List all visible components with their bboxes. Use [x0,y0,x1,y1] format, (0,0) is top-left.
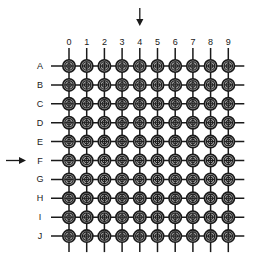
grid-node-C3 [116,98,128,110]
row-arrow-head [19,157,26,164]
grid-node-I5 [151,211,163,223]
grid-node-G2 [98,173,110,185]
grid-node-A7 [187,60,199,72]
grid-node-H0 [63,192,75,204]
column-label-1: 1 [80,37,94,47]
grid-node-E1 [81,135,93,147]
column-label-0: 0 [62,37,76,47]
grid-node-G4 [134,173,146,185]
grid-node-G8 [204,173,216,185]
column-label-2: 2 [97,37,111,47]
grid-node-A6 [169,60,181,72]
grid-node-H4 [134,192,146,204]
grid-node-I4 [134,211,146,223]
grid-node-D4 [134,117,146,129]
grid-node-J3 [116,230,128,242]
grid-node-C1 [81,98,93,110]
grid-node-J1 [81,230,93,242]
grid-node-I3 [116,211,128,223]
grid-node-A2 [98,60,110,72]
grid-node-F1 [81,154,93,166]
vertical-grid-lines [69,48,228,252]
grid-node-E4 [134,135,146,147]
grid-node-J7 [187,230,199,242]
row-label-D: D [33,118,47,128]
grid-node-G5 [151,173,163,185]
grid-node-C0 [63,98,75,110]
grid-node-E6 [169,135,181,147]
grid-node-B5 [151,79,163,91]
grid-node-G0 [63,173,75,185]
grid-node-D9 [222,117,234,129]
grid-node-C2 [98,98,110,110]
grid-node-E0 [63,135,75,147]
row-label-I: I [33,212,47,222]
column-arrow-head [136,19,143,26]
grid-node-B1 [81,79,93,91]
grid-node-E3 [116,135,128,147]
grid-node-C8 [204,98,216,110]
grid-node-D0 [63,117,75,129]
column-label-3: 3 [115,37,129,47]
grid-node-I2 [98,211,110,223]
grid-node-B8 [204,79,216,91]
grid-node-G9 [222,173,234,185]
grid-node-J4 [134,230,146,242]
row-label-B: B [33,80,47,90]
grid-node-D7 [187,117,199,129]
grid-node-A8 [204,60,216,72]
grid-node-F7 [187,154,199,166]
grid-node-F6 [169,154,181,166]
grid-node-I0 [63,211,75,223]
grid-node-H9 [222,192,234,204]
grid-node-C6 [169,98,181,110]
grid-node-I6 [169,211,181,223]
grid-node-H5 [151,192,163,204]
grid-node-J2 [98,230,110,242]
grid-node-H6 [169,192,181,204]
grid-node-B4 [134,79,146,91]
grid-node-B9 [222,79,234,91]
grid-node-J0 [63,230,75,242]
column-label-7: 7 [186,37,200,47]
grid-node-J5 [151,230,163,242]
grid-node-G6 [169,173,181,185]
grid-node-C5 [151,98,163,110]
grid-node-A0 [63,60,75,72]
grid-node-J6 [169,230,181,242]
column-label-4: 4 [133,37,147,47]
grid-node-H1 [81,192,93,204]
grid-node-E8 [204,135,216,147]
grid-node-I1 [81,211,93,223]
grid-node-H7 [187,192,199,204]
row-label-A: A [33,61,47,71]
grid-node-E9 [222,135,234,147]
grid-node-D8 [204,117,216,129]
grid-node-D5 [151,117,163,129]
grid-node-E2 [98,135,110,147]
grid-diagram-figure: 0123456789 ABCDEFGHIJ [0,0,258,264]
grid-node-A1 [81,60,93,72]
column-pointer-arrow [136,8,143,26]
row-label-J: J [33,231,47,241]
column-label-9: 9 [221,37,235,47]
grid-node-J8 [204,230,216,242]
grid-node-A3 [116,60,128,72]
grid-node-B7 [187,79,199,91]
grid-node-I9 [222,211,234,223]
grid-node-F0 [63,154,75,166]
column-label-6: 6 [168,37,182,47]
grid-node-H8 [204,192,216,204]
grid-node-E5 [151,135,163,147]
row-label-H: H [33,193,47,203]
grid-node-A4 [134,60,146,72]
row-label-E: E [33,137,47,147]
grid-node-G7 [187,173,199,185]
grid-node-C4 [134,98,146,110]
grid-node-D6 [169,117,181,129]
grid-node-B6 [169,79,181,91]
column-label-8: 8 [204,37,218,47]
grid-node-F9 [222,154,234,166]
grid-node-I7 [187,211,199,223]
grid-node-D3 [116,117,128,129]
